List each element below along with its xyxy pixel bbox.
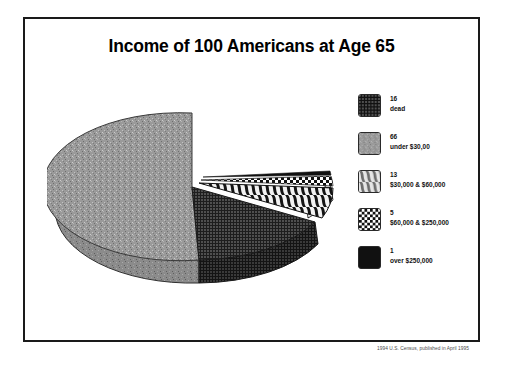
page-title: Income of 100 Americans at Age 65: [25, 36, 478, 57]
pie-chart: [47, 87, 337, 287]
chart-legend: 16 dead 66 under $30,00: [358, 94, 478, 284]
legend-item-under30k: 66 under $30,00: [358, 132, 478, 157]
legend-text-under30k: 66 under $30,00: [390, 132, 430, 151]
chart-frame: Income of 100 Americans at Age 65: [23, 17, 480, 342]
legend-count-under30k: 66: [390, 133, 430, 141]
legend-swatch-dead: [358, 94, 381, 117]
legend-item-dead: 16 dead: [358, 94, 478, 119]
legend-item-30k60k: 13 $30,000 & $60,000: [358, 170, 478, 195]
pie-chart-svg: [47, 87, 337, 287]
legend-item-over250k: 1 over $250,000: [358, 246, 478, 271]
source-credit: 1994 U.S. Census, published in April 199…: [377, 346, 469, 351]
legend-text-over250k: 1 over $250,000: [390, 246, 433, 265]
legend-count-60k250k: 5: [390, 209, 449, 217]
legend-count-dead: 16: [390, 95, 405, 103]
legend-item-60k250k: 5 $60,000 & $250,000: [358, 208, 478, 233]
legend-text-60k250k: 5 $60,000 & $250,000: [390, 208, 449, 227]
legend-count-30k60k: 13: [390, 171, 445, 179]
pie-slice-over250k: [203, 171, 331, 177]
legend-swatch-under30k: [358, 132, 381, 155]
legend-swatch-30k60k: [358, 170, 381, 193]
legend-swatch-over250k: [358, 246, 381, 269]
legend-count-over250k: 1: [390, 247, 433, 255]
legend-label-under30k: under $30,00: [390, 143, 430, 151]
legend-label-over250k: over $250,000: [390, 257, 433, 265]
legend-label-30k60k: $30,000 & $60,000: [390, 181, 445, 189]
legend-text-dead: 16 dead: [390, 94, 405, 113]
legend-text-30k60k: 13 $30,000 & $60,000: [390, 170, 445, 189]
legend-label-60k250k: $60,000 & $250,000: [390, 219, 449, 227]
legend-label-dead: dead: [390, 105, 405, 113]
legend-swatch-60k250k: [358, 208, 381, 231]
